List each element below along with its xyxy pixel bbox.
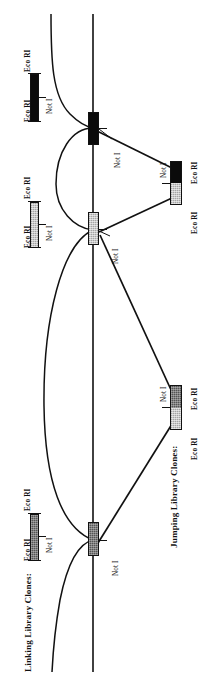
legend-linking-dkgray-top-caliper	[28, 513, 41, 514]
jumping-clone-lower-left-site-label: Eco RI	[192, 387, 199, 410]
jumping-clone-lower	[170, 385, 182, 430]
linking-clone-arc-lower-loop	[44, 230, 93, 540]
tick-dkgray-box	[99, 540, 107, 541]
not-i-leader-black-box	[99, 129, 112, 139]
jumping-clone-upper-bottom-half	[171, 183, 181, 204]
jumping-clone-upper	[170, 161, 182, 205]
legend-linking-black-left-site-label: Eco RI	[25, 99, 32, 122]
legend-linking-dkgray-center-tick	[39, 536, 46, 537]
genomic-box-black	[88, 112, 99, 145]
category-label-jumping: Jumping Library Clones:	[170, 446, 179, 548]
linking-clone-arc-bottom	[52, 540, 93, 672]
category-label-linking: Linking Library Clones:	[24, 573, 33, 672]
jumping-clone-lower-right-site-label: Eco RI	[192, 437, 199, 460]
jumping-clone-lower-connector-a	[100, 235, 172, 392]
genomic-box-black-site-label: Not I	[115, 153, 122, 168]
genomic-box-dkgray-site-label: Not I	[113, 561, 120, 576]
jumping-clone-upper-connector-b	[99, 198, 172, 232]
jumping-clone-upper-right-site-label: Eco RI	[192, 211, 199, 234]
legend-linking-black-center-tick	[39, 97, 46, 98]
legend-linking-ltgray-center-site-label: Not I	[47, 226, 54, 241]
legend-linking-black-center-site-label: Not I	[47, 99, 54, 114]
legend-linking-black-top-caliper	[28, 73, 41, 74]
library-clones-figure: Not I Not I Not I Not I Eco RI Eco RI No…	[0, 0, 204, 686]
jumping-clone-upper-center-tick	[162, 183, 171, 184]
jumping-clone-lower-center-tick	[162, 407, 171, 408]
jumping-clone-upper-center-site-label: Not I	[161, 163, 168, 178]
jumping-clone-lower-top-half	[171, 386, 181, 408]
jumping-clone-lower-center-site-label: Not I	[161, 387, 168, 402]
legend-linking-dkgray-center-site-label: Not I	[47, 538, 54, 553]
legend-linking-ltgray-left-site-label: Eco RI	[25, 225, 32, 248]
tick-black-box	[99, 128, 107, 129]
legend-linking-ltgray-center-tick	[39, 224, 46, 225]
legend-linking-ltgray-right-site-label: Eco RI	[25, 176, 32, 199]
legend-linking-ltgray-top-caliper	[28, 201, 41, 202]
tick-ltgray-box	[99, 229, 107, 230]
jumping-clone-upper-top-half	[171, 162, 181, 183]
jumping-clone-lower-connector-b	[98, 424, 172, 543]
genomic-box-ltgray-site-label: Not I	[113, 249, 120, 264]
genomic-box-ltgray	[88, 212, 99, 245]
jumping-clone-lower-bottom-half	[171, 408, 181, 430]
legend-linking-dkgray-left-site-label: Eco RI	[25, 538, 32, 561]
genomic-box-dkgray	[88, 522, 99, 556]
legend-linking-dkgray-right-site-label: Eco RI	[25, 488, 32, 511]
linking-clone-arc-top	[51, 14, 93, 128]
legend-linking-black-right-site-label: Eco RI	[25, 49, 32, 72]
jumping-clone-upper-left-site-label: Eco RI	[192, 161, 199, 184]
